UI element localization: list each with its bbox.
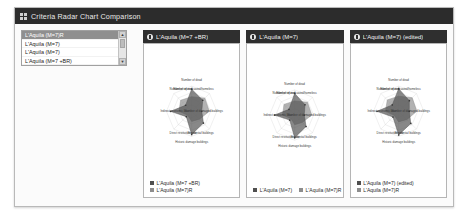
chart-icon [354,34,360,40]
legend-item[interactable]: L'Aquila (M=7)R [299,187,341,193]
panel-card-3: Number of deadNumber of evacuated/homele… [350,43,447,198]
legend-item[interactable]: L'Aquila (M=7 +BR) [150,180,234,186]
svg-text:Number of injured: Number of injured [170,87,193,91]
chart-icon [147,34,153,40]
legend-label: L'Aquila (M=7)R [157,187,193,193]
legend-label: L'Aquila (M=7) (edited) [363,180,414,186]
legend-swatch-icon [253,188,257,192]
legend-item[interactable]: L'Aquila (M=7)R [357,187,441,193]
grid-icon [20,13,27,20]
svg-text:Indirect economic loss: Indirect economic loss [367,109,396,113]
svg-text:Number of damaged buildings: Number of damaged buildings [185,109,224,113]
radar-chart-3[interactable]: Number of deadNumber of evacuated/homele… [352,46,445,179]
panel-title: L'Aquila (M=7) (edited) [363,34,424,40]
chart-panel-2: L'Aquila (M=7) Number of deadNumber of e… [246,30,343,198]
legend-swatch-icon [357,188,361,192]
legend-swatch-icon [150,188,154,192]
list-item[interactable]: L'Aquila (M=7) [22,40,118,49]
panel-header-2: L'Aquila (M=7) [246,30,343,43]
scroll-up-arrow-icon[interactable]: ▲ [119,31,126,38]
radar-chart-1[interactable]: Number of deadNumber of evacuated/homele… [145,46,238,179]
page-title: Criteria Radar Chart Comparison [31,12,141,21]
chart-icon [250,34,256,40]
panel-title: L'Aquila (M=7 +BR) [156,34,208,40]
chart-legend-2: L'Aquila (M=7) L'Aquila (M=7)R [248,186,341,195]
panel-card-2: Number of deadNumber of evacuated/homele… [246,43,343,198]
list-item[interactable]: L'Aquila (M=7) [22,48,118,57]
svg-text:Indirect economic loss: Indirect economic loss [264,113,293,117]
legend-item[interactable]: L'Aquila (M=7) (edited) [357,180,441,186]
legend-label: L'Aquila (M=7)R [363,187,399,193]
chart-legend-1: L'Aquila (M=7 +BR) L'Aquila (M=7)R [145,179,238,196]
svg-text:Number of dead: Number of dead [181,78,202,82]
svg-text:Number of dead: Number of dead [285,82,306,86]
panel-header-1: L'Aquila (M=7 +BR) [143,30,240,43]
panel-header-3: L'Aquila (M=7) (edited) [350,30,447,43]
svg-text:Historic damage buildings: Historic damage buildings [382,140,415,144]
chart-legend-3: L'Aquila (M=7) (edited) L'Aquila (M=7)R [352,179,445,196]
chart-panel-3: L'Aquila (M=7) (edited) Number of deadNu… [350,30,447,198]
panel-card-1: Number of deadNumber of evacuated/homele… [143,43,240,198]
svg-text:Direct restitution cost: Direct restitution cost [273,135,300,139]
list-item[interactable]: L'Aquila (M=7 +BR) [22,57,118,66]
scroll-down-arrow-icon[interactable]: ▼ [119,58,126,65]
window-body: L'Aquila (M=7)R L'Aquila (M=7) L'Aquila … [15,24,453,206]
legend-item[interactable]: L'Aquila (M=7) [253,187,292,193]
radar-chart-2[interactable]: Number of deadNumber of evacuated/homele… [248,46,341,186]
svg-text:Historic damage buildings: Historic damage buildings [279,144,312,148]
legend-label: L'Aquila (M=7) [260,187,292,193]
scenario-listbox[interactable]: L'Aquila (M=7)R L'Aquila (M=7) L'Aquila … [21,30,127,66]
scrollbar-thumb[interactable] [120,39,125,48]
chart-panel-1: L'Aquila (M=7 +BR) Number of deadNumber … [143,30,240,198]
legend-label: L'Aquila (M=7)R [306,187,342,193]
left-column: L'Aquila (M=7)R L'Aquila (M=7) L'Aquila … [21,30,137,198]
legend-swatch-icon [357,181,361,185]
svg-text:Number of injured: Number of injured [273,91,296,95]
panel-title: L'Aquila (M=7) [259,34,298,40]
svg-text:Number of injured: Number of injured [376,87,399,91]
list-item[interactable]: L'Aquila (M=7)R [22,31,118,40]
legend-label: L'Aquila (M=7 +BR) [157,180,200,186]
svg-text:Indirect economic loss: Indirect economic loss [160,109,189,113]
listbox-scrollbar[interactable]: ▲ ▼ [118,31,126,65]
window-titlebar: Criteria Radar Chart Comparison [15,8,453,24]
legend-swatch-icon [150,181,154,185]
chart-panels: L'Aquila (M=7 +BR) Number of deadNumber … [143,30,447,198]
svg-text:Number of damaged buildings: Number of damaged buildings [391,109,430,113]
criteria-radar-chart-window: Criteria Radar Chart Comparison L'Aquila… [14,7,454,207]
svg-text:Number of dead: Number of dead [388,78,409,82]
legend-swatch-icon [299,188,303,192]
svg-text:Direct restitution cost: Direct restitution cost [170,131,197,135]
svg-text:Historic damage buildings: Historic damage buildings [175,140,208,144]
svg-text:Direct restitution cost: Direct restitution cost [376,131,403,135]
svg-text:Number of damaged buildings: Number of damaged buildings [288,113,327,117]
legend-item[interactable]: L'Aquila (M=7)R [150,187,234,193]
